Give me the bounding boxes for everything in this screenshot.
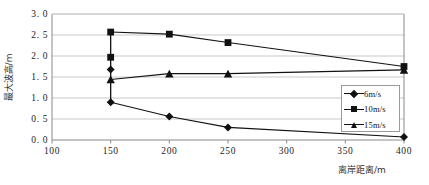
legend-marker-diamond-icon [344, 88, 364, 100]
chart-figure: 最大波高/m 0. 00. 51. 01. 52. 02. 53. 0 1001… [0, 0, 429, 185]
data-point-10m-s [166, 31, 173, 38]
data-point-extra-10m-s [107, 54, 114, 61]
data-point-10m-s [107, 29, 114, 36]
legend-label: 6m/s [364, 89, 381, 99]
legend-item-15m-s: 15m/s [342, 117, 399, 133]
legend-label: 15m/s [364, 120, 386, 130]
x-axis-title-text: 离岸距离/m [338, 165, 386, 175]
data-point-6m-s [224, 123, 232, 131]
series-line-10m-s [111, 32, 404, 66]
legend-marker-square-icon [344, 103, 364, 115]
chart-legend: 6m/s10m/s15m/s [341, 85, 400, 132]
legend-item-10m-s: 10m/s [342, 102, 399, 118]
diamond-icon [350, 90, 358, 98]
square-icon [351, 106, 357, 112]
x-axis-title: 离岸距离/m [338, 163, 386, 176]
data-point-10m-s [225, 39, 232, 46]
data-point-6m-s [107, 98, 115, 106]
legend-item-6m-s: 6m/s [342, 86, 399, 102]
triangle-icon [351, 122, 357, 128]
data-point-extra-6m-s [107, 65, 115, 73]
x-tick-marks [52, 140, 404, 144]
legend-marker-triangle-icon [344, 119, 364, 131]
series-line-15m-s [111, 70, 404, 80]
legend-label: 10m/s [364, 104, 386, 114]
